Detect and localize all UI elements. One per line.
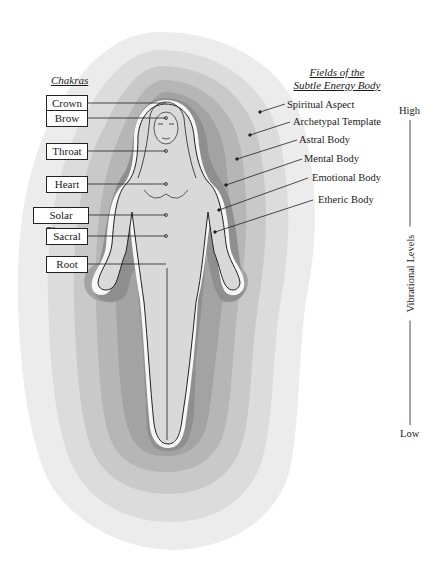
fields-heading-line2: Subtle Energy Body bbox=[282, 79, 392, 92]
field-label-archetypal-template: Archetypal Template bbox=[293, 116, 381, 128]
field-label-etheric-body: Etheric Body bbox=[318, 194, 374, 206]
chakra-label-root: Root bbox=[46, 256, 88, 273]
fields-heading: Fields of the Subtle Energy Body bbox=[282, 66, 392, 92]
vibrational-high-label: High bbox=[399, 105, 420, 117]
chakra-label-sacral: Sacral bbox=[46, 228, 88, 245]
chakras-heading: Chakras bbox=[51, 74, 88, 87]
vibrational-low-label: Low bbox=[400, 428, 419, 440]
field-label-mental-body: Mental Body bbox=[304, 153, 359, 165]
chakra-label-brow: Brow bbox=[46, 110, 88, 127]
chakra-label-heart: Heart bbox=[46, 176, 88, 193]
field-label-spiritual-aspect: Spiritual Aspect bbox=[287, 99, 354, 111]
vibrational-axis-label: Vibrational Levels bbox=[405, 227, 416, 321]
field-label-astral-body: Astral Body bbox=[299, 134, 350, 146]
fields-heading-line1: Fields of the bbox=[282, 66, 392, 79]
chakra-label-solar-plexus: Solar Plexus bbox=[33, 207, 89, 224]
field-label-emotional-body: Emotional Body bbox=[312, 172, 381, 184]
chakra-label-throat: Throat bbox=[46, 143, 88, 160]
